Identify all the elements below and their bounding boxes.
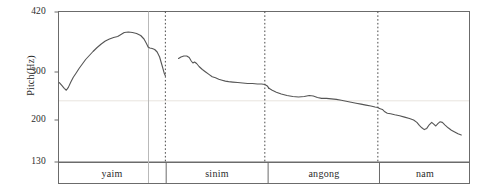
pitch-trace-sinim: [179, 56, 269, 88]
y-tickmark-group: [55, 12, 59, 162]
segment-label-nam: nam: [380, 167, 470, 181]
pitch-trace-group: [59, 32, 461, 135]
segment-label-yaim: yaim: [58, 167, 166, 181]
pitch-trace-nam: [379, 108, 461, 135]
pitch-trace-yaim: [59, 32, 165, 90]
segment-label-angong: angong: [268, 167, 380, 181]
plot-frame: [59, 12, 470, 163]
segment-marker-group: [149, 12, 378, 184]
pitch-contour-figure: Pitch(Hz) 420 300 200 130 yaim sinim ang…: [0, 0, 482, 196]
pitch-trace-angong: [269, 88, 380, 108]
segment-label-sinim: sinim: [166, 167, 268, 181]
